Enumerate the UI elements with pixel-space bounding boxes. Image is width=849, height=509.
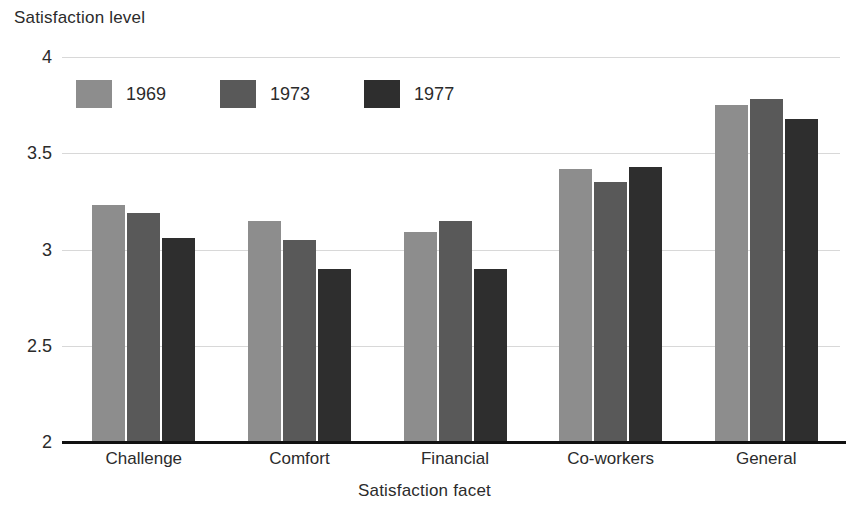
x-axis-line (62, 441, 846, 444)
legend: 196919731977 (76, 80, 508, 108)
bar[interactable] (127, 213, 160, 442)
y-axis-tick-label: 2 (0, 432, 52, 453)
x-axis-category-label: Comfort (269, 449, 329, 469)
bar[interactable] (750, 99, 783, 442)
legend-swatch-icon (364, 80, 400, 108)
plot-area (62, 57, 840, 442)
legend-label: 1977 (414, 84, 454, 105)
legend-label: 1973 (270, 84, 310, 105)
bar-group (559, 57, 662, 442)
y-axis-tick-label: 3.5 (0, 143, 52, 164)
y-axis-tick-label: 2.5 (0, 335, 52, 356)
x-axis-title: Satisfaction facet (0, 481, 849, 501)
bar[interactable] (715, 105, 748, 442)
y-axis-tick-label: 3 (0, 239, 52, 260)
bar[interactable] (629, 167, 662, 442)
x-axis-category-label: Financial (421, 449, 489, 469)
bar[interactable] (439, 221, 472, 442)
bar-group (715, 57, 818, 442)
legend-item[interactable]: 1977 (364, 80, 454, 108)
bar[interactable] (283, 240, 316, 442)
x-axis-category-label: Co-workers (567, 449, 654, 469)
bar[interactable] (318, 269, 351, 442)
legend-label: 1969 (126, 84, 166, 105)
bar[interactable] (404, 232, 437, 442)
bar[interactable] (559, 169, 592, 442)
x-axis-category-label: Challenge (106, 449, 183, 469)
bar[interactable] (474, 269, 507, 442)
bar[interactable] (92, 205, 125, 442)
bar[interactable] (594, 182, 627, 442)
bar-group (92, 57, 195, 442)
bar[interactable] (248, 221, 281, 442)
legend-item[interactable]: 1973 (220, 80, 310, 108)
x-axis-category-label: General (736, 449, 796, 469)
bar-group (404, 57, 507, 442)
legend-item[interactable]: 1969 (76, 80, 166, 108)
y-axis-title: Satisfaction level (14, 8, 145, 28)
legend-swatch-icon (220, 80, 256, 108)
y-axis-tick-label: 4 (0, 47, 52, 68)
legend-swatch-icon (76, 80, 112, 108)
bar-group (248, 57, 351, 442)
bar[interactable] (162, 238, 195, 442)
bar[interactable] (785, 119, 818, 442)
